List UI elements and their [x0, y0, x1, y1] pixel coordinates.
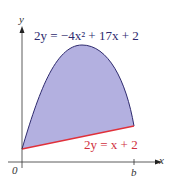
b-label: b: [131, 166, 137, 178]
curve-equation-label: 2y = −4x² + 17x + 2: [34, 28, 139, 44]
origin-label: 0: [12, 164, 18, 176]
y-axis-arrow-icon: [20, 26, 25, 33]
line-equation-label: 2y = x + 2: [84, 137, 138, 153]
x-axis-label: x: [159, 154, 164, 166]
y-axis-label: y: [19, 13, 24, 25]
